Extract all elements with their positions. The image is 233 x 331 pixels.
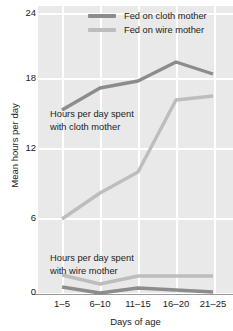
gridline-x-1-5 [62,6,64,294]
y-tick-24: 24 [2,7,36,18]
annotation-wire-mother: Hours per day spent with wire mother [50,252,134,277]
gridline-x-16-20 [176,6,178,294]
legend-item-wire: Fed on wire mother [88,23,207,37]
gridline-y-6 [38,218,233,220]
legend-swatch-wire-icon [88,28,116,32]
plot-area [38,6,233,294]
annotation-cloth-line2: with cloth mother [50,121,134,134]
gridline-x-21-25 [214,6,216,294]
x-axis-line [32,294,233,295]
y-axis-title: Mean hours per day [9,86,20,206]
gridline-x-6-10 [100,6,102,294]
x-tick-21-25: 21–25 [189,298,233,309]
legend-swatch-cloth-icon [88,14,116,18]
gridline-y-12 [38,148,233,150]
legend: Fed on cloth mother Fed on wire mother [88,9,207,37]
annotation-wire-line2: with wire mother [50,265,134,278]
y-tick-6: 6 [2,212,36,223]
gridline-y-18 [38,78,233,80]
annotation-cloth-mother: Hours per day spent with cloth mother [50,108,134,133]
y-tick-0: 0 [2,286,36,297]
legend-label-wire: Fed on wire mother [124,25,204,35]
line-chart: 24 18 12 6 0 1–5 6–10 11–15 16–20 21–25 … [0,0,233,331]
legend-label-cloth: Fed on cloth mother [124,11,207,21]
x-axis-title: Days of age [38,316,233,327]
y-tick-18: 18 [2,72,36,83]
annotation-wire-line1: Hours per day spent [50,252,134,265]
annotation-cloth-line1: Hours per day spent [50,108,134,121]
gridline-x-11-15 [138,6,140,294]
legend-item-cloth: Fed on cloth mother [88,9,207,23]
